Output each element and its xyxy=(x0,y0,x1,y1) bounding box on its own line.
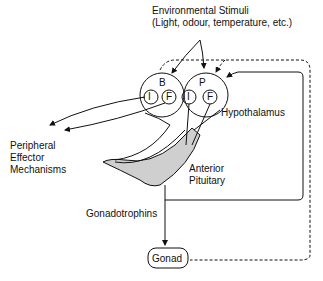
stimuli-arrow-p xyxy=(200,40,204,68)
stimuli-subtitle: (Light, odour, temperature, etc.) xyxy=(152,17,292,28)
stimuli-title: Environmental Stimuli xyxy=(152,5,249,16)
gonadotrophins-label: Gonadotrophins xyxy=(86,208,157,219)
peripheral-label-3: Mechanisms xyxy=(10,164,66,175)
node-f2-label: F xyxy=(207,91,213,102)
hypothalamus-label: Hypothalamus xyxy=(221,107,285,118)
node-i1-label: I xyxy=(148,91,151,102)
node-b-label: B xyxy=(159,77,166,88)
anterior-pituitary-shape xyxy=(103,128,200,186)
node-i2-label: I xyxy=(187,91,190,102)
peripheral-label-2: Effector xyxy=(10,152,44,163)
anterior-label-2: Pituitary xyxy=(189,175,225,186)
node-p-label: P xyxy=(199,77,206,88)
node-f1-label: F xyxy=(166,91,172,102)
gonad-label: Gonad xyxy=(152,253,182,264)
peripheral-label-1: Peripheral xyxy=(10,140,56,151)
stimuli-arrow-b xyxy=(172,40,200,73)
anterior-label-1: Anterior xyxy=(189,163,224,174)
